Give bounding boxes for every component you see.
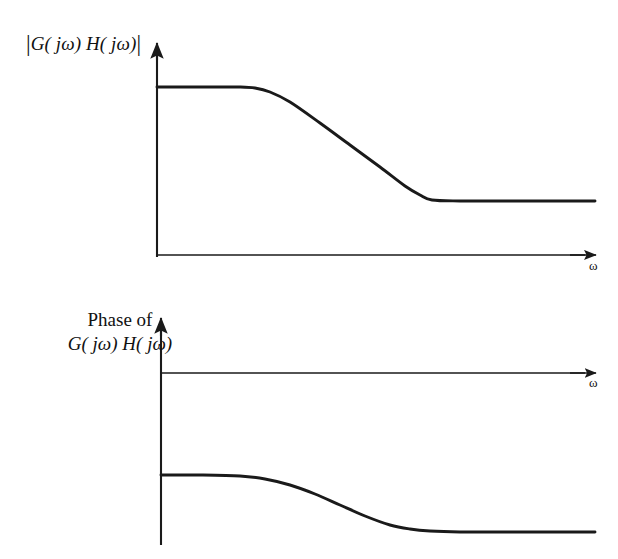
- phase-axis-label-line2: G( jω) H( jω): [35, 332, 205, 356]
- magnitude-axis-label: |G( jω) H( jω)|: [26, 30, 141, 56]
- phase-axis-label: Phase of G( jω) H( jω): [35, 308, 205, 356]
- magnitude-response-curve: [157, 87, 595, 201]
- phase-response-curve: [161, 475, 595, 532]
- magnitude-bar-open: |: [26, 31, 31, 56]
- phase-axis-label-line1: Phase of: [35, 308, 205, 332]
- plot-canvas: [0, 0, 618, 559]
- bode-plot-figure: |G( jω) H( jω)| ω Phase of G( jω) H( jω)…: [0, 0, 618, 559]
- magnitude-axis-label-body: G( jω) H( jω): [31, 33, 137, 54]
- magnitude-omega-axis-label: ω: [589, 258, 598, 274]
- magnitude-plot-group: [156, 43, 596, 257]
- phase-omega-axis-label: ω: [589, 375, 598, 391]
- phase-plot-group: [160, 318, 596, 545]
- magnitude-bar-close: |: [136, 31, 141, 56]
